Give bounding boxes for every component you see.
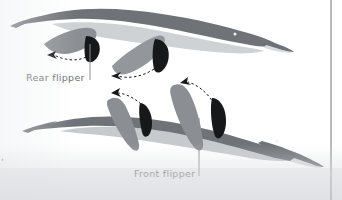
- figure-illustration: Rear flipper Front flipper ,: [0, 0, 342, 200]
- front-flipper-label: Front flipper: [134, 168, 195, 179]
- left-edge-text-fragment: ,: [1, 151, 4, 162]
- upper-eye: [234, 33, 237, 36]
- marine-reptile-diagram-svg: Rear flipper Front flipper ,: [0, 0, 342, 200]
- lower-eye: [276, 140, 279, 143]
- rear-flipper-label: Rear flipper: [26, 72, 85, 83]
